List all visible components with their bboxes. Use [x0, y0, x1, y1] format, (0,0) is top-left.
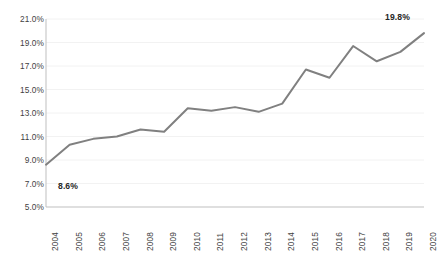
data-label-last: 19.8% — [385, 12, 410, 22]
series-line — [46, 33, 424, 165]
x-axis-tick-label: 2020 — [428, 232, 438, 251]
gridlines — [46, 19, 424, 184]
data-label-first: 8.6% — [58, 181, 78, 191]
